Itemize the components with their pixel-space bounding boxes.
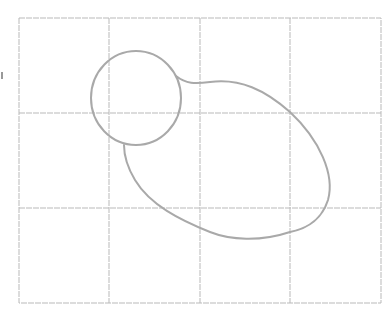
grid bbox=[19, 18, 381, 303]
diagram-canvas bbox=[0, 0, 391, 321]
blob-outline bbox=[124, 76, 330, 239]
small-circle bbox=[91, 51, 181, 145]
